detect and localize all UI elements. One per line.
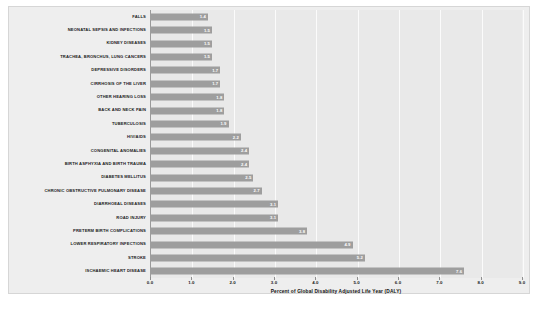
bar: 2.5 [150, 174, 253, 181]
bar-track: 4.9 [150, 238, 530, 251]
bar-value-label: 2.7 [253, 189, 261, 193]
bar-value-label: 1.7 [212, 68, 220, 72]
bar-track: 3.1 [150, 198, 530, 211]
x-axis-ticks: 0.01.02.03.04.05.06.07.08.09.0 [150, 280, 522, 289]
category-label: HIV/AIDS [8, 135, 150, 139]
bar-track: 1.8 [150, 90, 530, 103]
bar: 2.2 [150, 134, 241, 141]
bar-row: DIARRHOEAL DISEASES3.1 [8, 198, 530, 211]
category-label: DEPRESSIVE DISORDERS [8, 68, 150, 72]
x-tick-label: 4.0 [312, 280, 318, 285]
bar-value-label: 2.2 [233, 135, 241, 139]
bar-value-label: 2.4 [241, 162, 249, 166]
bar-track: 5.2 [150, 251, 530, 264]
category-label: NEONATAL SEPSIS AND INFECTIONS [8, 28, 150, 32]
bar-track: 1.9 [150, 117, 530, 130]
bar-track: 2.7 [150, 184, 530, 197]
bar-row: TRACHEA, BRONCHUS, LUNG CANCERS1.5 [8, 50, 530, 63]
bar: 3.1 [150, 214, 278, 221]
bar-rows-container: FALLS1.4NEONATAL SEPSIS AND INFECTIONS1.… [8, 10, 530, 278]
bar-value-label: 1.4 [200, 15, 208, 19]
x-tick-label: 1.0 [188, 280, 194, 285]
category-label: DIABETES MELLITUS [8, 175, 150, 179]
bar: 1.9 [150, 120, 229, 127]
bar-track: 1.5 [150, 37, 530, 50]
bar-track: 1.8 [150, 104, 530, 117]
bar-row: CHRONIC OBSTRUCTIVE PULMONARY DISEASE2.7 [8, 184, 530, 197]
bar-row: BACK AND NECK PAIN1.8 [8, 104, 530, 117]
bar-track: 2.5 [150, 171, 530, 184]
bar: 1.5 [150, 40, 212, 47]
bar-value-label: 1.5 [204, 41, 212, 45]
bar-value-label: 7.6 [456, 269, 464, 273]
bar-value-label: 2.5 [245, 175, 253, 179]
bar-row: DIABETES MELLITUS2.5 [8, 171, 530, 184]
bar-value-label: 1.9 [220, 122, 228, 126]
x-tick-label: 0.0 [147, 280, 153, 285]
bar-track: 1.5 [150, 50, 530, 63]
category-label: TUBERCULOSIS [8, 122, 150, 126]
plot-wrapper: FALLS1.4NEONATAL SEPSIS AND INFECTIONS1.… [8, 6, 530, 294]
bar-track: 1.4 [150, 10, 530, 23]
bar: 3.8 [150, 228, 307, 235]
bar-track: 3.1 [150, 211, 530, 224]
bar-row: ROAD INJURY3.1 [8, 211, 530, 224]
x-tick-label: 8.0 [477, 280, 483, 285]
bar: 4.9 [150, 241, 353, 248]
x-axis-title: Percent of Global Disability Adjusted Li… [150, 289, 522, 294]
category-label: FALLS [8, 15, 150, 19]
bar: 1.8 [150, 107, 224, 114]
bar: 2.7 [150, 187, 262, 194]
bar-row: CONGENITAL ANOMALIES2.4 [8, 144, 530, 157]
bar: 1.4 [150, 13, 208, 20]
bar-track: 2.4 [150, 157, 530, 170]
category-label: CIRRHOSIS OF THE LIVER [8, 82, 150, 86]
bar-value-label: 1.8 [216, 95, 224, 99]
bar-value-label: 3.1 [270, 202, 278, 206]
bar-value-label: 1.8 [216, 108, 224, 112]
bar-value-label: 4.9 [344, 243, 352, 247]
bar: 7.6 [150, 268, 464, 275]
bar-row: LOWER RESPIRATORY INFECTIONS4.9 [8, 238, 530, 251]
bar-row: BIRTH ASPHYXIA AND BIRTH TRAUMA2.4 [8, 157, 530, 170]
bar-row: FALLS1.4 [8, 10, 530, 23]
bar-row: TUBERCULOSIS1.9 [8, 117, 530, 130]
bar-track: 2.2 [150, 131, 530, 144]
bar-value-label: 1.7 [212, 82, 220, 86]
bar: 2.4 [150, 161, 249, 168]
x-tick-label: 9.0 [519, 280, 525, 285]
bar: 1.5 [150, 53, 212, 60]
bar-row: KIDNEY DISEASES1.5 [8, 37, 530, 50]
bar-row: HIV/AIDS2.2 [8, 131, 530, 144]
bar-value-label: 1.5 [204, 55, 212, 59]
x-tick-label: 2.0 [229, 280, 235, 285]
category-label: TRACHEA, BRONCHUS, LUNG CANCERS [8, 55, 150, 59]
bar-row: NEONATAL SEPSIS AND INFECTIONS1.5 [8, 23, 530, 36]
category-label: CHRONIC OBSTRUCTIVE PULMONARY DISEASE [8, 189, 150, 193]
bar-row: DEPRESSIVE DISORDERS1.7 [8, 64, 530, 77]
category-label: DIARRHOEAL DISEASES [8, 202, 150, 206]
bar-row: STROKE5.2 [8, 251, 530, 264]
bar-row: PRETERM BIRTH COMPLICATIONS3.8 [8, 225, 530, 238]
category-label: CONGENITAL ANOMALIES [8, 149, 150, 153]
bar-value-label: 3.8 [299, 229, 307, 233]
bar-value-label: 3.1 [270, 216, 278, 220]
bar: 1.7 [150, 80, 220, 87]
bar: 1.7 [150, 67, 220, 74]
bar-track: 3.8 [150, 225, 530, 238]
bar-value-label: 1.5 [204, 28, 212, 32]
x-tick-label: 7.0 [436, 280, 442, 285]
x-tick-label: 5.0 [353, 280, 359, 285]
category-label: OTHER HEARING LOSS [8, 95, 150, 99]
category-label: STROKE [8, 256, 150, 260]
bar-row: CIRRHOSIS OF THE LIVER1.7 [8, 77, 530, 90]
bar-row: ISCHAEMIC HEART DISEASE7.6 [8, 265, 530, 278]
bar-row: OTHER HEARING LOSS1.8 [8, 90, 530, 103]
bar-value-label: 2.4 [241, 149, 249, 153]
category-label: ROAD INJURY [8, 216, 150, 220]
bar-track: 7.6 [150, 265, 530, 278]
bar-track: 1.5 [150, 23, 530, 36]
bar: 1.5 [150, 27, 212, 34]
category-label: PRETERM BIRTH COMPLICATIONS [8, 229, 150, 233]
x-tick-label: 3.0 [271, 280, 277, 285]
